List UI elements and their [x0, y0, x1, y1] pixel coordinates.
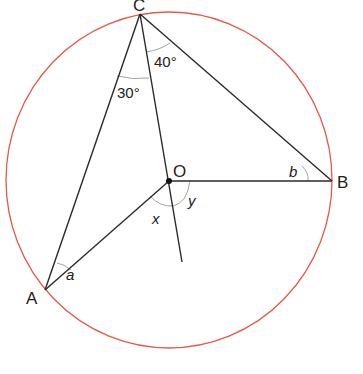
angle-arc-x [150, 196, 173, 206]
label-c: C [133, 0, 145, 15]
angle-label-x: x [151, 210, 160, 227]
centre-point-o [166, 178, 172, 184]
angle-label-40: 40° [154, 53, 177, 70]
angle-label-y: y [187, 192, 197, 209]
angle-label-a: a [66, 266, 74, 283]
label-b: B [337, 173, 348, 192]
label-o: O [173, 162, 186, 181]
angle-arc-ocb-40 [146, 43, 170, 52]
circle-theorem-diagram: C B A O 30° 40° b a x y [0, 0, 363, 374]
label-a: A [26, 289, 38, 308]
angle-label-b: b [289, 163, 297, 180]
angle-label-30: 30° [117, 84, 140, 101]
segment-co-extended [140, 14, 182, 262]
angle-arc-b [302, 166, 308, 181]
segment-cb [140, 14, 332, 181]
angle-arc-acо-30 [117, 76, 149, 79]
